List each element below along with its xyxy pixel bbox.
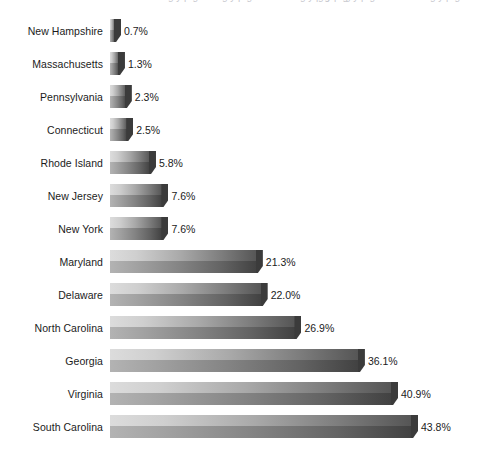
bar-bottom-face bbox=[110, 129, 127, 141]
category-label: New Hampshire bbox=[0, 14, 103, 47]
bar-row: New Jersey7.6% bbox=[0, 179, 484, 212]
bar-top-face bbox=[110, 85, 126, 96]
bar-row: Pennsylvania2.3% bbox=[0, 80, 484, 113]
bar bbox=[110, 316, 295, 339]
clipped-text-fragment: g y p g bbox=[168, 0, 198, 2]
bar-row: Rhode Island5.8% bbox=[0, 146, 484, 179]
category-label: Pennsylvania bbox=[0, 80, 103, 113]
bar-row: South Carolina43.8% bbox=[0, 410, 484, 443]
bar-top-face bbox=[110, 52, 119, 63]
bar-top-face bbox=[110, 382, 392, 393]
bar-row: New York7.6% bbox=[0, 212, 484, 245]
bar-bottom-face bbox=[110, 294, 262, 306]
value-label: 7.6% bbox=[171, 179, 195, 212]
bar-bottom-face bbox=[110, 63, 119, 75]
category-label: Rhode Island bbox=[0, 146, 103, 179]
bar-end-bevel bbox=[411, 415, 418, 438]
value-label: 2.5% bbox=[136, 113, 160, 146]
bar-row: Virginia40.9% bbox=[0, 377, 484, 410]
value-label: 21.3% bbox=[266, 245, 296, 278]
value-label: 7.6% bbox=[171, 212, 195, 245]
bar-top-face bbox=[110, 250, 257, 261]
bar-row: Connecticut2.5% bbox=[0, 113, 484, 146]
clipped-text-fragment: g y p g bbox=[300, 0, 330, 2]
bar-end-bevel bbox=[125, 85, 132, 108]
value-label: 0.7% bbox=[124, 14, 148, 47]
bar bbox=[110, 184, 162, 207]
value-label: 43.8% bbox=[421, 410, 451, 443]
bar-top-face bbox=[110, 217, 162, 228]
bar-end-bevel bbox=[126, 118, 133, 141]
bar-bottom-face bbox=[110, 228, 162, 240]
bar-row: New Hampshire0.7% bbox=[0, 14, 484, 47]
category-label: South Carolina bbox=[0, 410, 103, 443]
value-label: 2.3% bbox=[135, 80, 159, 113]
clipped-text-fragment: g y p g bbox=[222, 0, 252, 2]
category-label: New Jersey bbox=[0, 179, 103, 212]
bar-top-face bbox=[110, 118, 127, 129]
bar-top-face bbox=[110, 283, 262, 294]
bar bbox=[110, 250, 257, 273]
bar-end-bevel bbox=[161, 184, 168, 207]
category-label: North Carolina bbox=[0, 311, 103, 344]
category-label: Massachusetts bbox=[0, 47, 103, 80]
bar-row: Maryland21.3% bbox=[0, 245, 484, 278]
category-label: Georgia bbox=[0, 344, 103, 377]
clipped-title-strip: g y p gg y p gg y p gg y p gg y p gg y p… bbox=[0, 0, 484, 7]
bar bbox=[110, 118, 127, 141]
bar bbox=[110, 217, 162, 240]
value-label: 26.9% bbox=[304, 311, 334, 344]
bar-row: North Carolina26.9% bbox=[0, 311, 484, 344]
value-label: 5.8% bbox=[159, 146, 183, 179]
category-label: New York bbox=[0, 212, 103, 245]
bar-bottom-face bbox=[110, 261, 257, 273]
bar-chart: g y p gg y p gg y p gg y p gg y p gg y p… bbox=[0, 0, 484, 455]
bar bbox=[110, 151, 150, 174]
bar bbox=[110, 349, 359, 372]
value-label: 22.0% bbox=[271, 278, 301, 311]
category-label: Maryland bbox=[0, 245, 103, 278]
clipped-text-fragment: g y p g bbox=[318, 0, 348, 2]
value-label: 1.3% bbox=[128, 47, 152, 80]
value-label: 40.9% bbox=[401, 377, 431, 410]
bar-bottom-face bbox=[110, 162, 150, 174]
bar-row: Massachusetts1.3% bbox=[0, 47, 484, 80]
bar-end-bevel bbox=[261, 283, 268, 306]
bar bbox=[110, 52, 119, 75]
plot-area: New Hampshire0.7%Massachusetts1.3%Pennsy… bbox=[0, 14, 484, 455]
bar-top-face bbox=[110, 151, 150, 162]
bar-end-bevel bbox=[118, 52, 125, 75]
bar bbox=[110, 85, 126, 108]
bar-end-bevel bbox=[294, 316, 301, 339]
bar-row: Delaware22.0% bbox=[0, 278, 484, 311]
clipped-text-fragment: g y p g bbox=[430, 0, 460, 2]
bar-end-bevel bbox=[161, 217, 168, 240]
bar-end-bevel bbox=[114, 19, 121, 42]
value-label: 36.1% bbox=[368, 344, 398, 377]
bar bbox=[110, 283, 262, 306]
bar bbox=[110, 382, 392, 405]
bar-end-bevel bbox=[391, 382, 398, 405]
bar-bottom-face bbox=[110, 426, 412, 438]
bar bbox=[110, 415, 412, 438]
bar-bottom-face bbox=[110, 360, 359, 372]
category-label: Connecticut bbox=[0, 113, 103, 146]
category-label: Delaware bbox=[0, 278, 103, 311]
bar-end-bevel bbox=[256, 250, 263, 273]
bar-top-face bbox=[110, 316, 295, 327]
bar-top-face bbox=[110, 184, 162, 195]
bar-bottom-face bbox=[110, 195, 162, 207]
clipped-text-fragment: g y p g bbox=[345, 0, 375, 2]
bar-bottom-face bbox=[110, 327, 295, 339]
bar-end-bevel bbox=[149, 151, 156, 174]
bar-top-face bbox=[110, 349, 359, 360]
bar-bottom-face bbox=[110, 393, 392, 405]
bar-top-face bbox=[110, 415, 412, 426]
category-label: Virginia bbox=[0, 377, 103, 410]
bar-bottom-face bbox=[110, 96, 126, 108]
bar-end-bevel bbox=[358, 349, 365, 372]
bar-row: Georgia36.1% bbox=[0, 344, 484, 377]
